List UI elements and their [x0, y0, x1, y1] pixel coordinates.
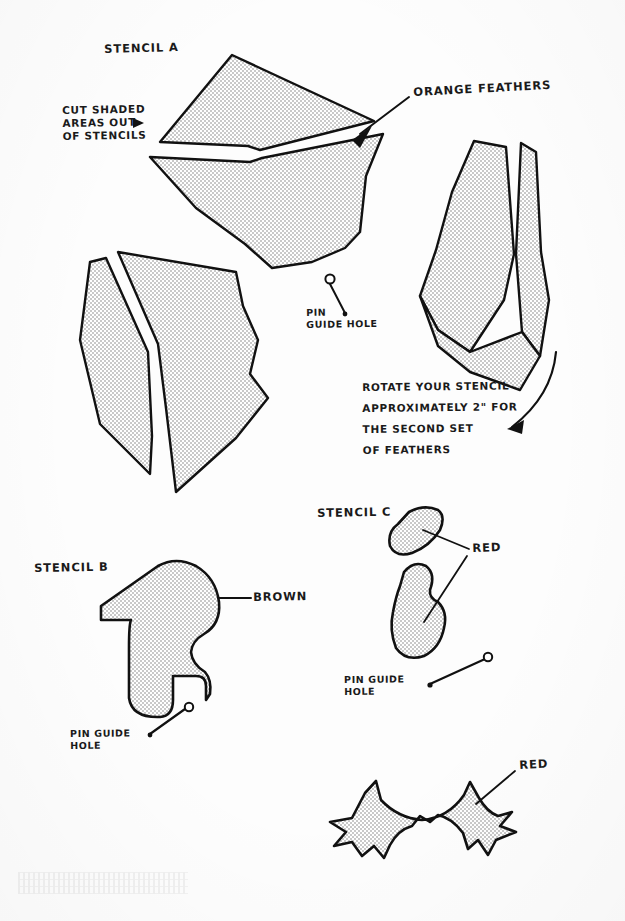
pin-guide-hole-b-dot-icon	[148, 733, 153, 738]
pin-guide-hole-c-dot-icon	[427, 682, 432, 687]
pin-guide-hole-a-circle-icon	[325, 274, 334, 283]
pin-guide-hole-b-label: PIN GUIDE HOLE	[70, 727, 131, 752]
pin-guide-hole-c-label: PIN GUIDE HOLE	[344, 673, 405, 698]
stencil-instruction-sheet: STENCIL A CUT SHADED AREAS OUT OF STENCI…	[0, 0, 625, 921]
red-label-feet: RED	[519, 756, 549, 772]
stencil-b-group	[101, 561, 219, 717]
stencil-a-title: STENCIL A	[104, 40, 179, 57]
brown-label: BROWN	[253, 589, 307, 605]
stencil-a-top-group	[150, 55, 383, 268]
red-feet-leader-line	[476, 771, 515, 804]
pin-guide-hole-a-label: PIN GUIDE HOLE	[306, 306, 378, 331]
stencil-c-top-blob	[389, 507, 442, 554]
orange-feathers-leader-line	[360, 97, 409, 134]
stencil-a-right-sliver-feather	[516, 143, 549, 356]
pin-guide-hole-c-leader-line	[430, 659, 485, 684]
rotate-stencil-instruction: ROTATE YOUR STENCIL APPROXIMATELY 2" FOR…	[362, 375, 518, 461]
pin-guide-hole-b-circle-icon	[185, 703, 193, 711]
stencil-a-top-lower-feather	[150, 134, 383, 268]
stencil-c-title: STENCIL C	[317, 505, 391, 521]
stencil-a-left-group	[80, 252, 268, 492]
stencil-b-title: STENCIL B	[34, 560, 109, 576]
bird-feet-shape	[330, 781, 516, 858]
pin-guide-hole-c-circle-icon	[484, 653, 492, 661]
stencil-b-bird-shape	[101, 561, 219, 717]
stencil-a-right-group	[420, 141, 549, 390]
bird-feet-group	[330, 781, 516, 858]
stencil-c-group	[389, 507, 445, 657]
red-label-stencil-c: RED	[472, 540, 501, 556]
stencil-c-bottom-blob	[392, 564, 446, 658]
cut-shaded-instruction: CUT SHADED AREAS OUT OF STENCILS	[62, 103, 147, 143]
stencil-a-top-upper-feather	[160, 55, 374, 150]
